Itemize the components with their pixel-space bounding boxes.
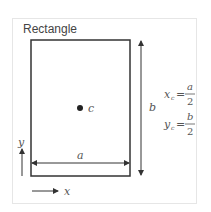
svg-text:c: c <box>171 94 175 101</box>
height-label: b <box>149 101 156 114</box>
svg-text:=: = <box>176 88 185 101</box>
svg-text:=: = <box>176 118 185 131</box>
svg-text:2: 2 <box>187 126 193 137</box>
rectangle-diagram: c a b y x x c = a 2 y c = b 2 <box>0 0 211 212</box>
centroid-dot <box>77 105 83 111</box>
svg-text:b: b <box>187 111 193 122</box>
svg-text:y: y <box>163 118 171 131</box>
width-label: a <box>77 149 84 162</box>
svg-text:2: 2 <box>187 96 193 107</box>
y-axis-label: y <box>17 136 25 149</box>
formula-xc: x c = a 2 <box>164 81 195 107</box>
x-axis-label: x <box>64 185 71 198</box>
svg-text:a: a <box>187 81 193 92</box>
formula-yc: y c = b 2 <box>163 111 195 137</box>
svg-text:x: x <box>164 88 171 101</box>
svg-text:c: c <box>171 124 175 131</box>
centroid-label: c <box>88 102 94 115</box>
